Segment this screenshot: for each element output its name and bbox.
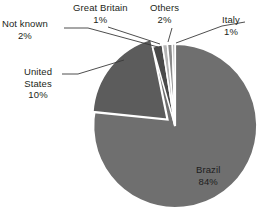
slice-label-united-states-name-line2: States [24, 78, 52, 90]
slice-label-others-name: Others [150, 2, 179, 13]
slice-label-great-britain-percent: 1% [73, 14, 128, 26]
slice-label-italy-percent: 1% [222, 26, 240, 38]
slice-label-great-britain-name: Great Britain [73, 2, 128, 13]
leader-line-others [168, 28, 172, 42]
slice-label-united-states-name-line1: United [24, 66, 52, 77]
slice-label-united-states-percent: 10% [24, 89, 52, 101]
slice-label-not-known: Not known 2% [2, 18, 48, 41]
slice-label-italy-name: Italy [222, 14, 240, 25]
slice-label-not-known-name: Not known [2, 18, 48, 29]
slice-label-brazil: Brazil 84% [196, 164, 220, 187]
slice-label-great-britain: Great Britain 1% [73, 2, 128, 25]
pie-chart: Not known 2% Great Britain 1% Others 2% … [0, 0, 267, 218]
slice-label-italy: Italy 1% [222, 14, 240, 37]
slice-label-others-percent: 2% [150, 14, 179, 26]
slice-label-brazil-percent: 84% [196, 176, 220, 188]
slice-label-not-known-percent: 2% [2, 30, 48, 42]
slice-label-brazil-name: Brazil [196, 164, 220, 175]
slice-label-others: Others 2% [150, 2, 179, 25]
slice-label-united-states: United States 10% [24, 66, 52, 101]
